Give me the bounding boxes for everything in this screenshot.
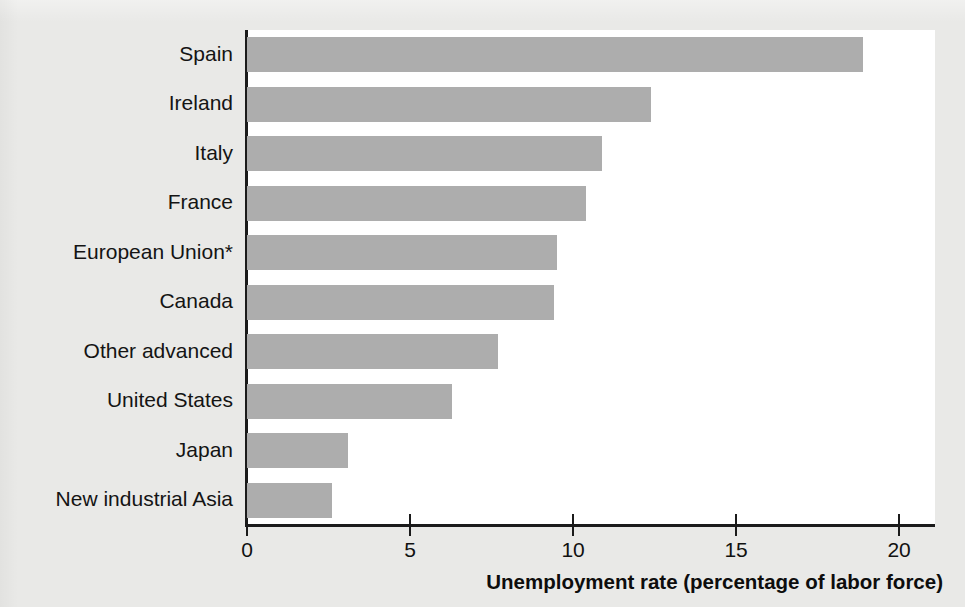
bar (247, 37, 863, 72)
category-label: Canada (14, 289, 246, 313)
x-tick-label-5: 5 (404, 538, 416, 562)
category-label: United States (14, 388, 246, 412)
x-tick-label-20: 20 (887, 538, 910, 562)
bar (247, 433, 348, 468)
x-axis-title: Unemployment rate (percentage of labor f… (486, 570, 943, 594)
bar (247, 483, 332, 518)
bar (247, 87, 651, 122)
x-tick-label-15: 15 (724, 538, 747, 562)
bar (247, 235, 557, 270)
category-label: Ireland (14, 91, 246, 115)
category-label: Italy (14, 141, 246, 165)
bar (247, 136, 602, 171)
x-tick-label-0: 0 (241, 538, 253, 562)
x-tick-label-10: 10 (561, 538, 584, 562)
bar (247, 285, 554, 320)
category-label: Other advanced (14, 339, 246, 363)
category-label: Japan (14, 438, 246, 462)
y-axis-category-labels: SpainIrelandItalyFranceEuropean Union*Ca… (0, 30, 246, 525)
category-label: European Union* (14, 240, 246, 264)
bar (247, 186, 586, 221)
category-label: Spain (14, 42, 246, 66)
bar-series (247, 30, 935, 525)
bar (247, 384, 452, 419)
chart-figure: 05101520 SpainIrelandItalyFranceEuropean… (0, 0, 965, 607)
category-label: New industrial Asia (14, 487, 246, 511)
bar (247, 334, 498, 369)
category-label: France (14, 190, 246, 214)
